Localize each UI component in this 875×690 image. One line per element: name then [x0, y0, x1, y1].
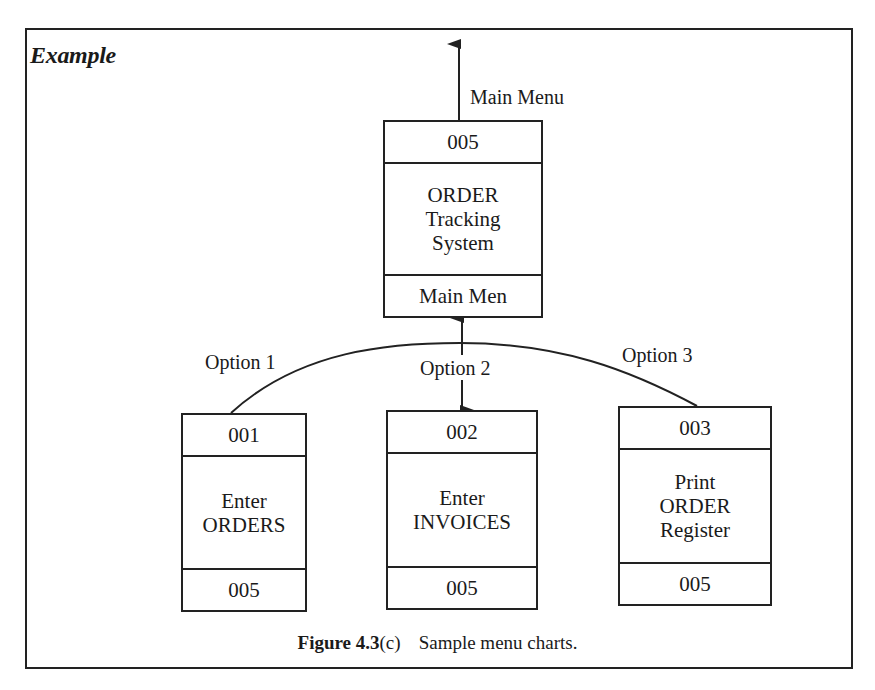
figure-suffix: (c)	[380, 632, 401, 653]
box-001-title-line: Enter	[221, 489, 266, 513]
option-2-label: Option 2	[418, 357, 493, 380]
menu-box-003: 003 Print ORDER Register 005	[618, 406, 772, 606]
figure-caption: Figure 4.3(c)Sample menu charts.	[0, 632, 875, 654]
box-002-id: 002	[388, 412, 536, 454]
figure-number: Figure 4.3	[298, 632, 380, 653]
main-menu-label: Main Menu	[470, 86, 564, 109]
root-title-line: System	[432, 231, 494, 255]
menu-box-002: 002 Enter INVOICES 005	[386, 410, 538, 610]
box-003-title: Print ORDER Register	[620, 450, 770, 562]
root-box-title: ORDER Tracking System	[385, 164, 541, 274]
box-002-footer: 005	[388, 566, 536, 608]
box-003-id: 003	[620, 408, 770, 450]
box-003-title-line: ORDER	[659, 494, 730, 518]
root-box-id: 005	[385, 122, 541, 164]
box-003-title-line: Register	[660, 518, 730, 542]
menu-box-001: 001 Enter ORDERS 005	[181, 413, 307, 612]
box-002-title-line: Enter	[439, 486, 484, 510]
box-002-title-line: INVOICES	[413, 510, 511, 534]
box-001-title: Enter ORDERS	[183, 457, 305, 568]
box-002-title: Enter INVOICES	[388, 454, 536, 566]
option-1-label: Option 1	[205, 351, 276, 374]
box-003-title-line: Print	[675, 470, 716, 494]
box-001-footer: 005	[183, 568, 305, 610]
root-menu-box: 005 ORDER Tracking System Main Men	[383, 120, 543, 318]
box-003-footer: 005	[620, 562, 770, 604]
caption-text: Sample menu charts.	[419, 632, 578, 653]
option-3-label: Option 3	[622, 344, 693, 367]
root-title-line: ORDER	[427, 183, 498, 207]
root-box-footer: Main Men	[385, 274, 541, 316]
box-001-title-line: ORDERS	[203, 513, 286, 537]
root-title-line: Tracking	[425, 207, 500, 231]
box-001-id: 001	[183, 415, 305, 457]
